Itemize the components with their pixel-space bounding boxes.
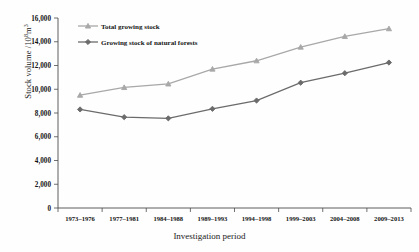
legend-item[interactable]: Growing stock of natural forests: [78, 39, 198, 47]
data-point-marker: [342, 71, 347, 76]
x-tick-label: 1994–1998: [242, 215, 272, 222]
y-tick-label: 6,000: [35, 133, 52, 141]
x-axis-ticks: 1973–19761977–19811984–19881989–19931994…: [58, 208, 411, 222]
legend-label: Growing stock of natural forests: [101, 39, 198, 47]
y-tick-label: 14,000: [31, 38, 51, 46]
x-tick-label: 1999–2003: [286, 215, 316, 222]
series-line: [80, 63, 389, 119]
legend-marker-icon: [85, 39, 90, 44]
legend-label: Total growing stock: [101, 23, 160, 31]
y-tick-label: 2,000: [35, 181, 52, 189]
chart-figure: Stock volume /108m3 Investigation period…: [0, 0, 419, 252]
plot-area: 02,0004,0006,0008,00010,00012,00014,0001…: [0, 0, 419, 252]
y-tick-label: 10,000: [31, 86, 51, 94]
data-point-marker: [210, 106, 215, 111]
data-series: [77, 26, 391, 97]
data-point-marker: [298, 80, 303, 85]
x-tick-label: 1989–1993: [198, 215, 228, 222]
legend: Total growing stockGrowing stock of natu…: [78, 23, 198, 47]
y-tick-label: 16,000: [31, 15, 51, 23]
data-point-marker: [77, 107, 82, 112]
chart-svg: 02,0004,0006,0008,00010,00012,00014,0001…: [0, 0, 419, 252]
data-series: [77, 60, 391, 121]
y-tick-label: 12,000: [31, 62, 51, 70]
y-axis-ticks: 02,0004,0006,0008,00010,00012,00014,0001…: [31, 15, 58, 213]
data-point-marker: [254, 98, 259, 103]
y-tick-label: 4,000: [35, 157, 52, 165]
x-tick-label: 2004–2008: [330, 215, 360, 222]
y-tick-label: 0: [47, 205, 51, 213]
data-point-marker: [166, 116, 171, 121]
data-point-marker: [386, 60, 391, 65]
y-tick-label: 8,000: [35, 110, 52, 118]
x-tick-label: 1977–1981: [109, 215, 139, 222]
x-tick-label: 1973–1976: [65, 215, 95, 222]
x-tick-label: 2009–2013: [374, 215, 404, 222]
data-point-marker: [122, 115, 127, 120]
legend-item[interactable]: Total growing stock: [78, 23, 160, 31]
x-tick-label: 1984–1988: [153, 215, 183, 222]
